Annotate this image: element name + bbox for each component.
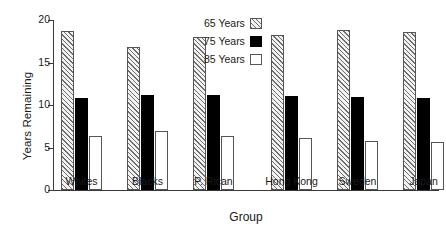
bar bbox=[403, 32, 416, 190]
bar bbox=[127, 47, 140, 190]
legend-swatch-open-icon bbox=[250, 54, 262, 65]
legend-item-75-years: 75 Years bbox=[204, 32, 262, 50]
x-axis-line bbox=[53, 190, 439, 191]
bar bbox=[337, 30, 350, 190]
bar-group bbox=[337, 20, 378, 190]
legend-label-85-years: 85 Years bbox=[204, 53, 245, 65]
bar-group bbox=[61, 20, 102, 190]
legend-item-85-years: 85 Years bbox=[204, 50, 262, 68]
legend-item-65-years: 65 Years bbox=[204, 14, 262, 32]
bar-group bbox=[127, 20, 168, 190]
bar bbox=[271, 35, 284, 190]
x-axis-label: Japan bbox=[384, 175, 446, 187]
legend-swatch-hatched-icon bbox=[250, 18, 262, 29]
bar bbox=[61, 31, 74, 190]
legend: 65 Years 75 Years 85 Years bbox=[204, 14, 262, 68]
legend-label-65-years: 65 Years bbox=[204, 17, 245, 29]
x-axis-label: P. Rican bbox=[174, 175, 254, 187]
legend-label-75-years: 75 Years bbox=[204, 35, 245, 47]
y-tick-label: 10 bbox=[38, 98, 50, 110]
y-tick-label: 5 bbox=[44, 141, 50, 153]
bar-group bbox=[271, 20, 312, 190]
y-axis-title: Years Remaining bbox=[21, 41, 33, 191]
legend-swatch-solid-icon bbox=[250, 36, 262, 47]
bar-group bbox=[403, 20, 444, 190]
y-axis-line bbox=[53, 20, 54, 191]
x-axis-title: Group bbox=[53, 210, 439, 224]
bar-chart: Years Remaining 05101520 WhitesBlacksP. … bbox=[0, 0, 446, 238]
y-tick-label: 20 bbox=[38, 13, 50, 25]
y-tick-label: 15 bbox=[38, 56, 50, 68]
